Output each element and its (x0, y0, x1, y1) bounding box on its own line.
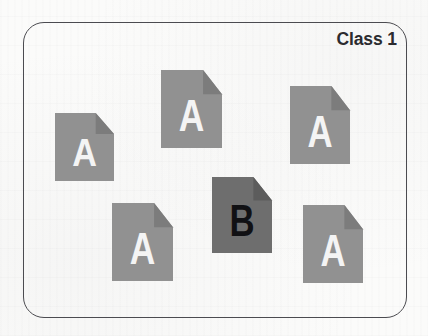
document-icon-a: A (303, 205, 363, 283)
document-icon-a: A (290, 86, 350, 164)
document-fold-corner (203, 70, 222, 94)
document-icon-a: A (161, 70, 222, 148)
document-icon-a: A (112, 203, 173, 281)
document-fold-corner (253, 177, 272, 201)
document-letter: A (72, 131, 97, 175)
document-fold-corner (331, 86, 350, 110)
document-fold-corner (344, 205, 363, 229)
document-letter: B (229, 196, 254, 245)
document-letter: A (179, 90, 205, 141)
document-fold-corner (154, 203, 173, 227)
document-letter: A (320, 224, 345, 276)
document-fold-corner (96, 113, 114, 134)
document-letter: A (307, 105, 332, 157)
document-letter: A (130, 223, 156, 274)
class-label: Class 1 (336, 29, 397, 50)
document-icon-a: A (55, 113, 114, 181)
document-icon-b: B (212, 177, 272, 253)
